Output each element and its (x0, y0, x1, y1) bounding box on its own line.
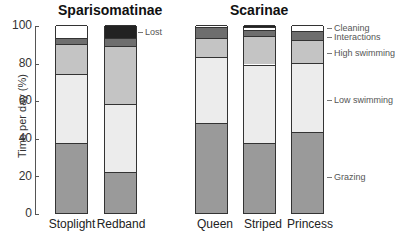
group-title-sparisomatinae: Sparisomatinae (58, 2, 162, 18)
legend-interactions: Interactions (327, 32, 381, 42)
segment-grazing (105, 172, 136, 213)
y-axis (35, 26, 36, 214)
y-axis-label: Time per day (%) (16, 74, 28, 158)
segment-interactions (244, 30, 275, 37)
segment-low-swimming (196, 57, 227, 123)
legend-high-swimming: High swimming (327, 48, 395, 58)
segment-cleaning (56, 25, 87, 38)
bar-princess (291, 26, 324, 214)
y-tick-80: 80 (12, 56, 32, 70)
y-tick-mark (35, 214, 39, 215)
segment-interactions (56, 38, 87, 44)
segment-low-swimming (105, 104, 136, 172)
y-tick-60: 60 (12, 93, 32, 107)
y-tick-mark (35, 139, 39, 140)
y-tick-0: 0 (12, 206, 32, 220)
segment-cleaning (196, 25, 227, 27)
segment-cleaning (292, 25, 323, 31)
category-label-princess: Princess (285, 217, 335, 231)
segment-low-swimming (244, 65, 275, 144)
segment-high-swimming (105, 46, 136, 104)
y-tick-mark (35, 26, 39, 27)
bar-striped (243, 26, 276, 214)
segment-grazing (244, 143, 275, 213)
segment-interactions (105, 38, 136, 46)
segment-low-swimming (56, 74, 87, 144)
group-title-scarinae: Scarinae (230, 2, 288, 18)
bar-stoplight (55, 26, 88, 214)
y-tick-mark (35, 101, 39, 102)
category-label-redband: Redband (96, 217, 146, 231)
category-label-queen: Queen (190, 217, 240, 231)
y-tick-20: 20 (12, 169, 32, 183)
segment-interactions (196, 27, 227, 38)
segment-grazing (56, 143, 87, 213)
bar-redband (104, 26, 137, 214)
segment-grazing (292, 132, 323, 213)
segment-low-swimming (292, 63, 323, 133)
y-tick-40: 40 (12, 131, 32, 145)
segment-high-swimming (56, 44, 87, 74)
y-tick-mark (35, 64, 39, 65)
segment-lost (244, 25, 275, 27)
legend-low-swimming: Low swimming (327, 95, 393, 105)
legend-grazing: Grazing (327, 172, 366, 182)
category-label-stoplight: Stoplight (47, 217, 97, 231)
y-tick-100: 100 (6, 18, 32, 32)
y-tick-mark (35, 176, 39, 177)
bar-queen (195, 26, 228, 214)
category-label-striped: Striped (238, 217, 288, 231)
segment-cleaning (244, 27, 275, 30)
segment-high-swimming (244, 36, 275, 64)
segment-lost (105, 25, 136, 38)
segment-interactions (292, 31, 323, 40)
legend-lost: Lost (138, 27, 162, 37)
segment-high-swimming (196, 38, 227, 57)
segment-high-swimming (292, 40, 323, 63)
segment-grazing (196, 123, 227, 213)
